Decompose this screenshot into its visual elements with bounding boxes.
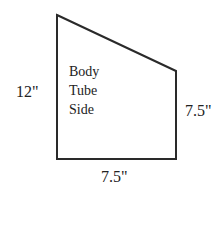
bottom-width-label: 7.5" [101,169,128,185]
inner-label-line-2: Tube [69,84,97,98]
left-height-label: 12" [16,84,39,100]
inner-label-line-1: Body [69,65,99,79]
right-height-label: 7.5" [185,103,212,119]
inner-label-line-3: Side [69,103,94,117]
